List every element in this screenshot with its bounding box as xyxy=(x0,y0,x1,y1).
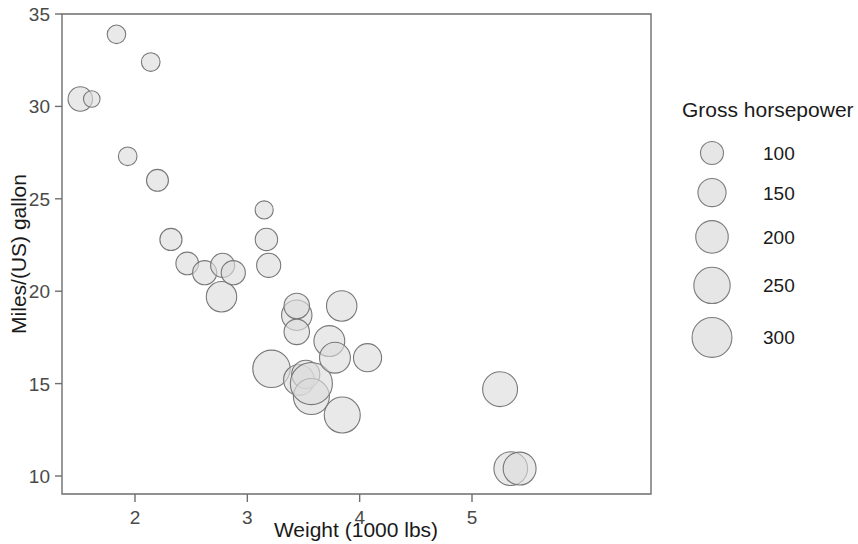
data-bubble xyxy=(353,344,381,372)
y-tick-label: 20 xyxy=(29,281,50,302)
data-bubble xyxy=(324,397,360,433)
data-bubble xyxy=(221,261,245,285)
legend-title: Gross horsepower xyxy=(682,98,854,121)
y-axis-title: Miles/(US) gallon xyxy=(7,174,30,334)
legend-bubble xyxy=(696,221,729,254)
legend-bubble xyxy=(701,142,724,165)
legend-bubble xyxy=(692,318,732,358)
data-bubble xyxy=(255,201,273,219)
y-tick-label: 10 xyxy=(29,466,50,487)
x-axis-title: Weight (1000 lbs) xyxy=(274,518,438,541)
x-tick-label: 2 xyxy=(130,507,141,528)
data-bubble xyxy=(160,228,182,250)
chart-canvas: 101520253035 2345 Weight (1000 lbs) Mile… xyxy=(0,0,858,544)
legend: Gross horsepower 100150200250300 xyxy=(682,98,854,357)
data-bubble xyxy=(206,282,236,312)
data-bubble xyxy=(257,253,281,277)
data-bubble xyxy=(83,91,100,108)
y-tick-label: 15 xyxy=(29,374,50,395)
y-tick-label: 25 xyxy=(29,189,50,210)
legend-entry-label: 200 xyxy=(763,227,795,248)
y-axis: 101520253035 xyxy=(29,4,62,487)
legend-entry-label: 250 xyxy=(763,275,795,296)
x-tick-label: 3 xyxy=(242,507,253,528)
data-bubble xyxy=(284,293,310,319)
data-bubbles xyxy=(68,25,536,485)
legend-entry-label: 300 xyxy=(763,327,795,348)
data-bubble xyxy=(255,228,277,250)
data-bubble xyxy=(503,452,536,485)
bubble-chart-figure: 101520253035 2345 Weight (1000 lbs) Mile… xyxy=(0,0,858,544)
data-bubble xyxy=(320,342,351,373)
data-bubble xyxy=(146,169,168,191)
data-bubble xyxy=(118,147,137,166)
legend-bubble xyxy=(698,179,726,207)
x-tick-label: 5 xyxy=(467,507,478,528)
data-bubble xyxy=(483,372,518,407)
data-bubble xyxy=(284,319,310,345)
legend-entries: 100150200250300 xyxy=(692,142,795,358)
y-tick-label: 35 xyxy=(29,4,50,25)
data-bubble xyxy=(107,25,126,44)
legend-entry-label: 150 xyxy=(763,183,795,204)
data-bubble xyxy=(326,291,356,321)
data-bubble xyxy=(141,53,160,72)
legend-entry-label: 100 xyxy=(763,143,795,164)
y-tick-label: 30 xyxy=(29,96,50,117)
legend-bubble xyxy=(694,267,730,303)
